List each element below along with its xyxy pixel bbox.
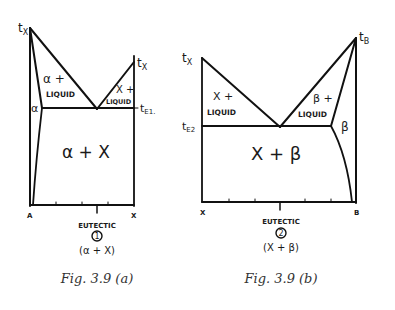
region-x-liquid-b: X + — [213, 90, 233, 103]
region-x-liquid-a: X + — [116, 84, 134, 95]
region-beta-liquid-b-2: LIQUID — [298, 110, 327, 119]
axis-label-b-right: B — [354, 209, 359, 217]
solvus-alpha-a — [33, 108, 42, 205]
eutectic-number-b: 2 — [278, 229, 283, 238]
region-x-beta-b: X + β — [251, 143, 301, 164]
label-te2: tE2 — [182, 120, 195, 134]
eutectic-phases-b: (X + β) — [263, 242, 299, 253]
axis-label-a-left: A — [27, 212, 33, 220]
eutectic-number-a: 1 — [94, 232, 99, 241]
eutectic-label-b: EUTECTIC — [262, 218, 300, 226]
eutectic-label-a: EUTECTIC — [78, 222, 116, 230]
label-tx-left-a: tX — [18, 21, 29, 37]
label-tx-right-a: tX — [137, 56, 148, 72]
region-alpha-liquid-a: α + — [43, 72, 65, 86]
caption-a: Fig. 3.9 (a) — [60, 271, 133, 286]
caption-b: Fig. 3.9 (b) — [243, 271, 317, 286]
figure-b — [202, 38, 356, 238]
region-x-liquid-b-2: LIQUID — [207, 108, 236, 117]
eutectic-phases-a: (α + X) — [79, 245, 115, 256]
region-alpha-a: α — [31, 102, 38, 115]
label-te1: tE1. — [140, 102, 155, 116]
axis-label-b-left: X — [200, 209, 206, 217]
label-tx-b: tX — [182, 51, 193, 67]
solvus-beta-b — [331, 126, 352, 202]
region-alpha-x-a: α + X — [62, 142, 110, 162]
axis-label-a-right: X — [131, 212, 137, 220]
figure-a — [30, 28, 138, 241]
region-alpha-liquid-a-2: LIQUID — [46, 90, 75, 99]
phase-diagrams: tX tX tE1. α + LIQUID X + LIQUID α α + X… — [0, 0, 395, 310]
region-beta-liquid-b: β + — [313, 92, 333, 105]
region-beta-b: β — [341, 120, 349, 134]
region-x-liquid-a-2: LIQUID — [106, 98, 132, 106]
label-tb: tB — [359, 30, 369, 46]
figure-b-labels: tX tB tE2 X + LIQUID β + LIQUID β X + β … — [182, 30, 369, 286]
